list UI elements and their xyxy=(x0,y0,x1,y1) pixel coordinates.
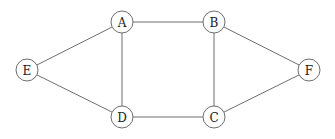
node-d: D xyxy=(111,106,133,128)
node-label: B xyxy=(210,16,219,30)
node-label: F xyxy=(305,64,313,78)
edge-a-e xyxy=(27,22,122,70)
node-label: D xyxy=(117,111,127,125)
node-e: E xyxy=(16,59,38,81)
edges-layer xyxy=(27,22,309,117)
node-label: E xyxy=(23,64,32,78)
edge-c-f xyxy=(214,70,309,117)
node-a: A xyxy=(111,11,133,33)
node-c: C xyxy=(203,106,225,128)
graph-canvas: ABCDEF xyxy=(0,0,335,139)
edge-e-d xyxy=(27,70,122,117)
node-label: A xyxy=(117,16,127,30)
node-label: C xyxy=(209,111,218,125)
node-b: B xyxy=(203,11,225,33)
node-f: F xyxy=(298,59,320,81)
graph-diagram: ABCDEF xyxy=(0,0,335,139)
nodes-layer: ABCDEF xyxy=(16,11,320,128)
edge-b-f xyxy=(214,22,309,70)
